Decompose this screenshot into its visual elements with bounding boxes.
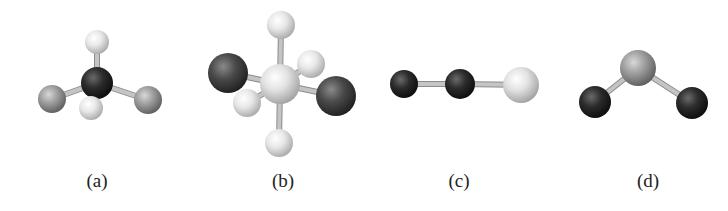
atom-right-dark bbox=[316, 76, 356, 116]
atom-left-dark bbox=[208, 53, 248, 93]
atom-center-dark bbox=[81, 67, 113, 99]
atom-left-gray bbox=[38, 85, 66, 113]
atom-middle-dark bbox=[445, 69, 475, 99]
atom-back-right-light bbox=[297, 50, 325, 78]
atom-right-dark bbox=[676, 87, 708, 119]
molecule-d bbox=[579, 50, 708, 119]
panel-label-c: (c) bbox=[448, 170, 469, 192]
panel-label-d: (d) bbox=[637, 170, 659, 192]
atom-front-light bbox=[79, 96, 103, 120]
panel-label-a: (a) bbox=[86, 170, 107, 192]
atom-right-light bbox=[503, 67, 539, 103]
atom-top-light bbox=[85, 30, 109, 54]
atom-center-light bbox=[260, 64, 300, 104]
molecule-b bbox=[208, 11, 356, 157]
atom-top-gray bbox=[620, 50, 656, 86]
atom-right-gray bbox=[134, 86, 162, 114]
atom-top-light bbox=[267, 11, 295, 39]
atom-bottom-light bbox=[265, 129, 293, 157]
panel-label-b: (b) bbox=[272, 170, 294, 192]
molecule-a bbox=[38, 30, 162, 120]
atom-left-dark bbox=[390, 70, 418, 98]
molecule-c bbox=[390, 67, 539, 103]
molecule-figure bbox=[0, 0, 728, 211]
atom-front-left-light bbox=[233, 89, 261, 117]
atom-left-dark bbox=[579, 86, 611, 118]
